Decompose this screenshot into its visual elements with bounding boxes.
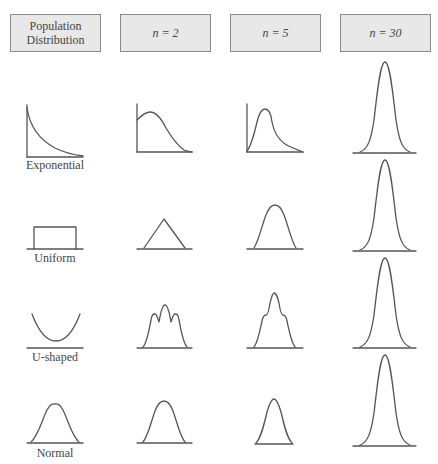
uniform-n5-curve <box>247 205 303 249</box>
row-label-u-shaped: U-shaped <box>10 350 100 365</box>
normal-n2-curve <box>137 401 192 443</box>
row-label-uniform: Uniform <box>10 251 100 266</box>
exponential-population-curve <box>27 105 83 157</box>
row-label-normal: Normal <box>10 446 100 461</box>
normal-n5-curve <box>255 399 293 444</box>
exponential-n2-curve <box>137 104 192 152</box>
uniform-n30-curve <box>353 160 416 251</box>
row-label-exponential: Exponential <box>10 158 100 173</box>
u-shaped-population-curve <box>27 314 83 348</box>
uniform-population-curve <box>27 227 83 249</box>
u-shaped-n5-curve <box>247 293 303 348</box>
uniform-n2-curve <box>137 219 192 249</box>
distribution-grid <box>0 0 438 464</box>
exponential-n30-curve <box>353 62 416 153</box>
normal-population-curve <box>27 404 83 443</box>
normal-n30-curve <box>353 355 416 446</box>
u-shaped-n2-curve <box>137 305 192 348</box>
u-shaped-n30-curve <box>353 258 416 348</box>
exponential-n5-curve <box>247 104 303 152</box>
